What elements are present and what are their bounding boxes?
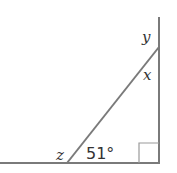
label-z: z [55, 146, 64, 164]
right-angle-marker [139, 143, 159, 163]
label-x: x [143, 66, 152, 84]
angle-label: 51° [86, 144, 114, 163]
geometry-diagram: y x z 51° [0, 0, 177, 173]
label-y: y [141, 28, 151, 46]
